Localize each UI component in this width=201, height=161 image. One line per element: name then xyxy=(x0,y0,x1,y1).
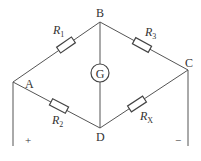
bridge-circuit: G B A C D R1 R3 R2 RX + − xyxy=(0,0,201,161)
r1-label: R1 xyxy=(52,23,64,39)
minus-terminal-label: − xyxy=(175,134,181,146)
galvanometer-label: G xyxy=(96,67,105,81)
plus-terminal-label: + xyxy=(25,134,31,146)
node-d-label: D xyxy=(96,130,105,144)
node-c-label: C xyxy=(185,56,193,70)
resistor-r2 xyxy=(49,99,68,114)
r2-label: R2 xyxy=(51,113,63,129)
resistor-r1 xyxy=(57,37,76,53)
rx-label: RX xyxy=(139,109,153,125)
node-a-label: A xyxy=(25,77,34,91)
resistor-r3 xyxy=(132,38,151,53)
r3-label: R3 xyxy=(144,25,156,41)
node-b-label: B xyxy=(96,6,104,20)
